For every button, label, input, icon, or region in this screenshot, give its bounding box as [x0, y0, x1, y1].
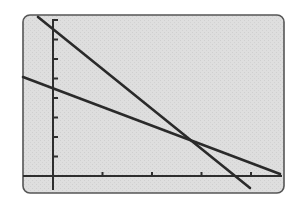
calculator-screen-frame: [23, 15, 284, 193]
line-chart: [0, 0, 301, 205]
screen-background: [23, 15, 284, 193]
